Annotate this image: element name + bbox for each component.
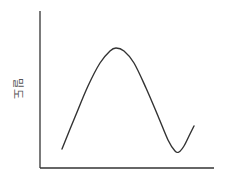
density-chart <box>0 0 228 182</box>
y-axis-label-container: 밀도 <box>7 74 31 104</box>
y-axis-label: 밀도 <box>11 78 27 100</box>
density-curve <box>62 48 194 153</box>
